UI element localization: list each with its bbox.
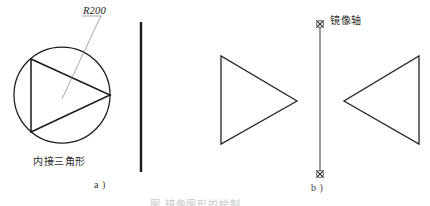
circle-outline	[14, 47, 110, 143]
mirror-axis-top-endpoint-marker	[316, 20, 323, 27]
bottom-caption-clip: 图 镜像图形的绘制	[0, 197, 430, 206]
source-triangle	[221, 56, 297, 144]
panel-a-sublabel: a )	[94, 180, 106, 190]
panel-b-sublabel: b )	[311, 183, 323, 193]
mirror-axis-label: 镜像轴	[330, 16, 362, 26]
figure-bottom-caption: 图 镜像图形的绘制	[150, 197, 240, 206]
figure-vector-canvas	[0, 0, 430, 206]
mirrored-triangle	[344, 56, 419, 144]
radius-leader-elbow	[98, 16, 101, 22]
radius-dimension-label: R200	[83, 6, 106, 17]
inscribed-triangle	[31, 59, 110, 132]
technical-drawing-figure: R200 内接三角形 a ) 镜像轴 b ) 图 镜像图形的绘制	[0, 0, 430, 206]
mirror-axis-bottom-endpoint-marker	[316, 170, 323, 177]
inscribed-triangle-caption: 内接三角形	[33, 157, 86, 167]
